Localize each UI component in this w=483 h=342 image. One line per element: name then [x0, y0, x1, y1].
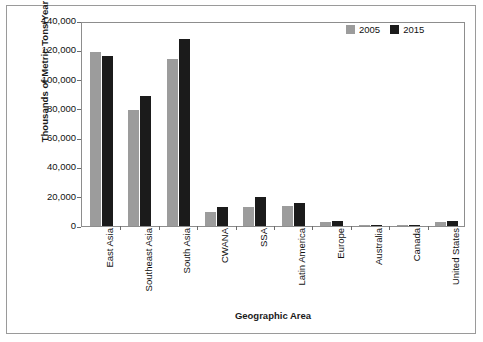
y-axis-tick-label: 140,000 [42, 15, 76, 26]
bar-australia-2015 [371, 225, 382, 226]
bar-latin-america-2015 [294, 203, 305, 226]
y-axis-tick-label: 40,000 [47, 161, 76, 172]
y-axis-tick-label: 20,000 [47, 191, 76, 202]
bar-east-asia-2015 [102, 56, 113, 226]
bar-cwana-2005 [205, 212, 216, 226]
bar-ssa-2005 [243, 207, 254, 226]
bar-southeast-asia-2015 [140, 96, 151, 226]
legend-item-2015: 2015 [390, 24, 424, 35]
bar-ssa-2015 [255, 197, 266, 226]
bar-south-asia-2005 [167, 59, 178, 226]
bar-east-asia-2005 [90, 52, 101, 226]
bar-south-asia-2015 [179, 39, 190, 226]
legend-item-2005: 2005 [346, 24, 380, 35]
bar-europe-2015 [332, 221, 343, 226]
legend-swatch-2005-icon [346, 25, 355, 34]
bar-canada-2015 [409, 225, 420, 226]
bar-cwana-2015 [217, 207, 228, 226]
bar-europe-2005 [320, 222, 331, 226]
bar-latin-america-2005 [282, 206, 293, 226]
x-axis-label-south-asia: South Asia [181, 228, 192, 306]
bars-layer [82, 23, 464, 226]
legend-label-2015: 2015 [403, 24, 424, 35]
bar-australia-2005 [359, 225, 370, 226]
x-axis-label-east-asia: East Asia [104, 228, 115, 306]
x-axis-label-southeast-asia: Southeast Asia [143, 228, 154, 306]
x-axis-label-ssa: SSA [258, 228, 269, 306]
legend-swatch-2015-icon [390, 25, 399, 34]
bar-united-states-2015 [447, 221, 458, 226]
x-axis-category-labels: East AsiaSoutheast AsiaSouth AsiaCWANASS… [81, 228, 465, 306]
x-axis-label-latin-america: Latin America [296, 228, 307, 306]
y-axis-tick-label: 80,000 [47, 103, 76, 114]
y-axis-tick-label: 60,000 [47, 132, 76, 143]
x-axis-label-united-states: United States [450, 228, 461, 306]
y-axis-tick-labels: 020,00040,00060,00080,000100,000120,0001… [0, 22, 81, 227]
x-axis-title: Geographic Area [81, 310, 465, 321]
x-axis-label-cwana: CWANA [219, 228, 230, 306]
bar-canada-2005 [397, 225, 408, 226]
chart-screenshot: Thousands of Metric Tons/Year 020,00040,… [0, 0, 483, 342]
y-axis-tick-label: 0 [71, 220, 76, 231]
chart-legend: 2005 2015 [346, 24, 424, 35]
y-axis-tick-label: 120,000 [42, 44, 76, 55]
bar-southeast-asia-2005 [128, 110, 139, 226]
bar-united-states-2005 [435, 222, 446, 226]
x-axis-label-europe: Europe [335, 228, 346, 306]
x-axis-label-australia: Australia [373, 228, 384, 306]
plot-area [81, 22, 465, 227]
legend-label-2005: 2005 [359, 24, 380, 35]
x-axis-label-canada: Canada [411, 228, 422, 306]
y-axis-tick-label: 100,000 [42, 74, 76, 85]
